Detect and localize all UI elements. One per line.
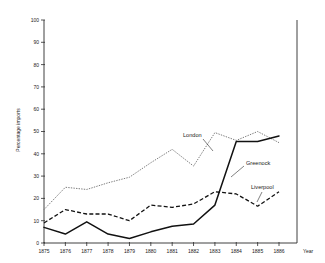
y-axis-title: Percentage imports xyxy=(15,108,21,152)
x-tick-label: 1882 xyxy=(188,248,199,254)
series-line-liverpool xyxy=(44,192,279,223)
x-tick-label: 1884 xyxy=(231,248,242,254)
y-axis: 0102030405060708090100 Percentage import… xyxy=(15,17,45,246)
series-line-greenock xyxy=(44,136,279,239)
x-axis-title: Year xyxy=(303,248,313,254)
x-tick-label: 1878 xyxy=(103,248,114,254)
x-tick-label: 1877 xyxy=(81,248,92,254)
x-tick-label: 1875 xyxy=(38,248,49,254)
x-tick-label: 1885 xyxy=(252,248,263,254)
y-tick-label: 10 xyxy=(33,218,39,224)
annotation-liverpool: Liverpool xyxy=(251,184,274,202)
line-chart-plot: 0102030405060708090100 Percentage import… xyxy=(0,0,325,263)
y-tick-label: 50 xyxy=(33,128,39,134)
greenock-leader-line xyxy=(231,166,244,177)
liverpool-leader-line xyxy=(257,192,262,202)
y-axis-ticks: 0102030405060708090100 xyxy=(31,17,45,246)
y-tick-label: 40 xyxy=(33,151,39,157)
data-series-group xyxy=(44,132,279,239)
x-tick-label: 1881 xyxy=(167,248,178,254)
series-label-london: London xyxy=(183,132,202,138)
series-line-london xyxy=(44,132,279,210)
x-tick-label: 1876 xyxy=(60,248,71,254)
x-tick-label: 1883 xyxy=(209,248,220,254)
y-tick-label: 100 xyxy=(31,17,40,23)
x-tick-label: 1880 xyxy=(145,248,156,254)
annotation-london: London xyxy=(183,132,213,151)
chart-container: 0102030405060708090100 Percentage import… xyxy=(0,0,325,263)
x-tick-label: 1879 xyxy=(124,248,135,254)
annotation-greenock: Greenock xyxy=(231,160,270,177)
x-tick-label: 1886 xyxy=(273,248,284,254)
series-label-greenock: Greenock xyxy=(246,160,270,166)
x-axis-ticks: 1875187618771878187918801881188218831884… xyxy=(38,242,284,254)
y-tick-label: 80 xyxy=(33,62,39,68)
y-tick-label: 60 xyxy=(33,106,39,112)
y-tick-label: 90 xyxy=(33,39,39,45)
y-tick-label: 30 xyxy=(33,173,39,179)
y-tick-label: 0 xyxy=(36,240,39,246)
series-label-liverpool: Liverpool xyxy=(251,184,274,190)
y-tick-label: 20 xyxy=(33,195,39,201)
y-tick-label: 70 xyxy=(33,84,39,90)
